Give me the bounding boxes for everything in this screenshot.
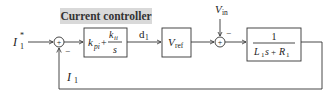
svg-text:R: R [278, 46, 285, 57]
svg-text:+: + [271, 47, 276, 57]
svg-text:+: + [101, 37, 107, 48]
svg-text:ref: ref [175, 41, 184, 50]
svg-text:−: − [226, 28, 231, 38]
input-label: I 1 * [12, 31, 24, 51]
svg-text:pi: pi [93, 42, 100, 51]
svg-text:1: 1 [20, 42, 24, 51]
svg-text:1: 1 [74, 76, 78, 85]
summing-junction-2: + − [215, 28, 231, 47]
svg-text:+: + [218, 38, 223, 47]
vref-block: V ref [162, 28, 191, 57]
svg-text:1: 1 [145, 33, 149, 42]
svg-text:s: s [265, 46, 269, 57]
duty-label: d 1 [139, 28, 149, 42]
svg-text:+: + [57, 38, 62, 47]
vin-label: V in [215, 3, 228, 17]
svg-text:in: in [222, 8, 228, 17]
svg-text:L: L [253, 46, 260, 57]
block-diagram: Current controller I 1 * + − k pi + k ii… [0, 0, 336, 95]
svg-text:I: I [66, 70, 72, 84]
svg-text:*: * [20, 31, 24, 40]
svg-text:s: s [113, 44, 117, 55]
svg-text:ii: ii [114, 34, 118, 42]
summing-junction-1: + − [54, 37, 70, 56]
plant-block: 1 L 1 s + R 1 [247, 28, 301, 61]
svg-text:1: 1 [272, 31, 277, 42]
svg-text:I: I [12, 35, 18, 49]
pi-controller-block: k pi + k ii s [84, 28, 127, 57]
controller-title: Current controller [60, 10, 151, 22]
svg-text:−: − [65, 46, 70, 56]
svg-text:1: 1 [286, 51, 290, 59]
feedback-label: I 1 [66, 70, 78, 85]
